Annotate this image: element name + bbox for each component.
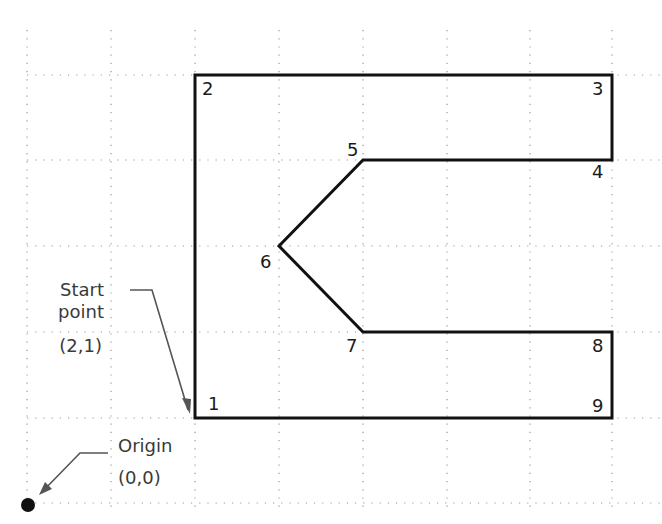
vertex-label-6: 6 bbox=[260, 251, 271, 272]
start-point-leader-line bbox=[130, 290, 188, 410]
vertex-label-3: 3 bbox=[592, 78, 603, 99]
vertex-labels: 1 2 3 4 5 6 7 8 9 bbox=[202, 78, 603, 416]
vertex-label-4: 4 bbox=[592, 161, 603, 182]
start-point-label-line2: point bbox=[58, 301, 104, 322]
origin-annotation: Origin (0,0) bbox=[21, 435, 172, 512]
start-point-label-line1: Start bbox=[60, 279, 104, 300]
vertex-label-7: 7 bbox=[346, 335, 357, 356]
start-point-annotation: Start point (2,1) bbox=[58, 279, 191, 414]
origin-coords: (0,0) bbox=[118, 467, 161, 488]
start-point-coords: (2,1) bbox=[59, 335, 102, 356]
vertex-label-1: 1 bbox=[208, 393, 219, 414]
vertex-label-5: 5 bbox=[347, 139, 358, 160]
vertex-label-9: 9 bbox=[592, 395, 603, 416]
coordinate-grid-diagram: 1 2 3 4 5 6 7 8 9 Start point (2,1) Orig… bbox=[0, 0, 662, 524]
vertex-label-2: 2 bbox=[202, 78, 213, 99]
start-point-arrowhead-icon bbox=[182, 398, 191, 414]
origin-leader-line bbox=[42, 453, 108, 492]
origin-dot-icon bbox=[21, 498, 35, 512]
origin-label: Origin bbox=[118, 435, 172, 456]
vertex-label-8: 8 bbox=[592, 335, 603, 356]
